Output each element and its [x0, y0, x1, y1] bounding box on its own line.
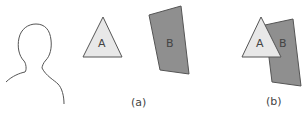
occlusion-diagram: A B (a) B A (b) [0, 0, 307, 114]
caption-a: (a) [131, 96, 146, 109]
quad-b-label: B [166, 37, 174, 50]
triangle-a-label: A [256, 37, 264, 50]
quad-b-label: B [279, 37, 287, 50]
caption-b: (b) [266, 95, 282, 108]
triangle-a-label: A [98, 37, 106, 50]
panel-a: A B (a) [83, 6, 189, 109]
panel-b: B A (b) [242, 17, 301, 108]
viewer-head-outline [6, 24, 64, 104]
